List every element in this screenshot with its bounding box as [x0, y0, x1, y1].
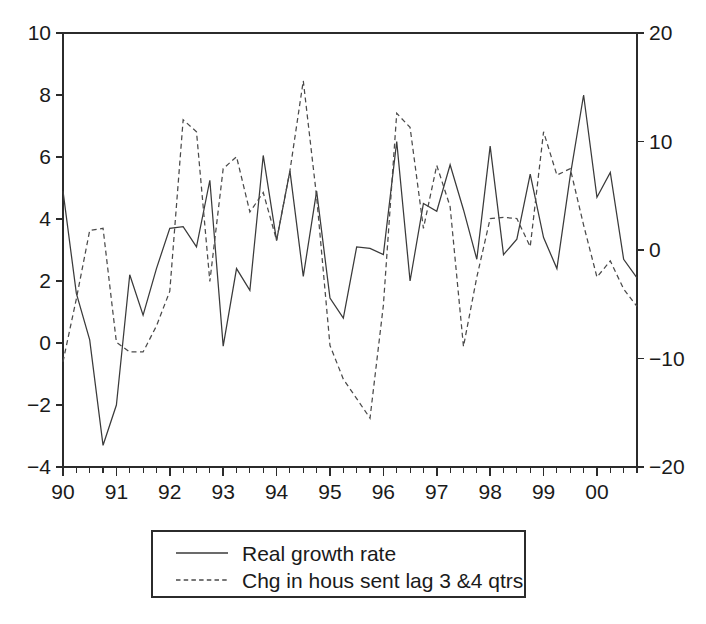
y-left-tick-label: 2 [39, 269, 51, 292]
y-left-tick-label: −2 [27, 393, 51, 416]
y-right-tick-label: 10 [649, 130, 672, 153]
x-tick-label: 92 [158, 480, 181, 503]
legend-label: Chg in hous sent lag 3 &4 qtrs [242, 569, 523, 592]
x-tick-label: 98 [478, 480, 501, 503]
x-tick-label: 90 [51, 480, 74, 503]
x-tick-label: 95 [318, 480, 341, 503]
y-left-tick-label: 6 [39, 145, 51, 168]
y-right-tick-label: −10 [649, 347, 685, 370]
x-tick-label: 94 [265, 480, 289, 503]
y-left-tick-label: 0 [39, 331, 51, 354]
y-left-tick-label: 4 [39, 207, 51, 230]
y-left-tick-label: −4 [27, 455, 51, 478]
x-tick-label: 99 [532, 480, 555, 503]
y-right-tick-label: 0 [649, 238, 661, 261]
x-tick-label: 91 [105, 480, 128, 503]
y-left-tick-label: 10 [28, 21, 51, 44]
y-left-tick-label: 8 [39, 83, 51, 106]
chart-figure: 1086420−2−4 20100−10−20 9091929394959697… [0, 0, 706, 624]
chart-legend: Real growth rateChg in hous sent lag 3 &… [152, 531, 525, 597]
y-right-tick-label: 20 [649, 21, 672, 44]
legend-label: Real growth rate [242, 542, 396, 565]
x-tick-label: 97 [425, 480, 448, 503]
x-tick-label: 96 [372, 480, 395, 503]
x-tick-label: 00 [585, 480, 608, 503]
chart-canvas: 1086420−2−4 20100−10−20 9091929394959697… [0, 0, 706, 624]
y-right-tick-label: −20 [649, 455, 685, 478]
x-tick-label: 93 [212, 480, 235, 503]
